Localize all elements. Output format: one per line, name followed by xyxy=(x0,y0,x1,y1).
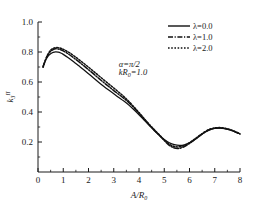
x-tick-label: 5 xyxy=(162,175,167,185)
y-axis-title: k3II xyxy=(5,91,16,103)
x-tick-label: 6 xyxy=(187,175,192,185)
data-series-group xyxy=(43,48,240,149)
legend-label: λ=0.0 xyxy=(193,21,213,31)
y-axis-tick-labels: 0.20.40.60.81.0 xyxy=(22,17,34,147)
x-tick-label: 2 xyxy=(86,175,91,185)
x-axis-tick-labels: 012345678 xyxy=(36,175,243,185)
y-tick-label: 1.0 xyxy=(22,17,34,27)
annotation-kr0: kR0=1.0 xyxy=(119,67,148,78)
series-line xyxy=(43,49,240,149)
x-axis-title: A/R0 xyxy=(130,190,148,201)
x-title-subscript: 0 xyxy=(144,195,147,201)
x-tick-label: 8 xyxy=(238,175,243,185)
chart-legend: λ=0.0λ=1.0λ=2.0 xyxy=(168,21,213,53)
y-tick-label: 0.4 xyxy=(22,107,34,117)
x-tick-label: 1 xyxy=(61,175,66,185)
y-tick-label: 0.6 xyxy=(22,77,34,87)
chart-figure: 012345678 0.20.40.60.81.0 A/R0 k3II α=π/… xyxy=(0,0,254,208)
x-axis-ticks xyxy=(38,168,240,172)
y-axis-ticks xyxy=(38,22,42,157)
svg-text:k3II: k3II xyxy=(5,91,16,103)
x-tick-label: 0 xyxy=(36,175,41,185)
kr-value: =1.0 xyxy=(131,67,148,77)
chart-canvas: 012345678 0.20.40.60.81.0 A/R0 k3II α=π/… xyxy=(0,0,254,208)
legend-label: λ=1.0 xyxy=(193,32,213,42)
y-tick-label: 0.8 xyxy=(22,47,34,57)
x-tick-label: 7 xyxy=(213,175,218,185)
legend-label: λ=2.0 xyxy=(193,43,213,53)
x-tick-label: 4 xyxy=(137,175,142,185)
series-line xyxy=(43,48,240,147)
y-tick-label: 0.2 xyxy=(22,137,33,147)
chart-annotations: α=π/2 kR0=1.0 xyxy=(119,59,148,78)
series-line xyxy=(43,52,240,146)
y-title-superscript: II xyxy=(5,91,11,97)
x-tick-label: 3 xyxy=(112,175,117,185)
